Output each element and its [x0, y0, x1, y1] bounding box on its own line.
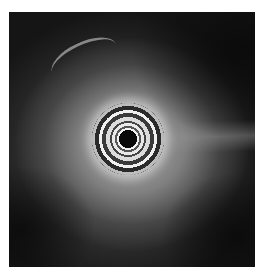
transducer-rings [92, 103, 164, 175]
ultrasound-image [9, 12, 255, 267]
